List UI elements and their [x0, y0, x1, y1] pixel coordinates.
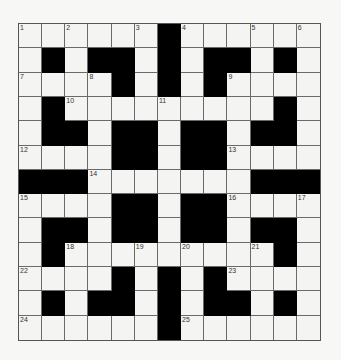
letter-cell[interactable]: 7 [19, 73, 42, 97]
letter-cell[interactable] [181, 267, 204, 291]
letter-cell[interactable] [297, 121, 320, 145]
letter-cell[interactable] [227, 97, 250, 121]
letter-cell[interactable] [65, 291, 88, 315]
letter-cell[interactable] [251, 316, 274, 340]
letter-cell[interactable] [181, 48, 204, 72]
letter-cell[interactable] [112, 24, 135, 48]
letter-cell[interactable] [251, 73, 274, 97]
letter-cell[interactable] [274, 194, 297, 218]
letter-cell[interactable] [274, 24, 297, 48]
letter-cell[interactable] [135, 73, 158, 97]
letter-cell[interactable] [112, 170, 135, 194]
letter-cell[interactable] [227, 121, 250, 145]
letter-cell[interactable]: 11 [158, 97, 181, 121]
letter-cell[interactable] [88, 316, 111, 340]
letter-cell[interactable] [42, 146, 65, 170]
letter-cell[interactable] [158, 218, 181, 242]
letter-cell[interactable] [297, 73, 320, 97]
letter-cell[interactable] [251, 267, 274, 291]
letter-cell[interactable] [19, 218, 42, 242]
letter-cell[interactable] [135, 267, 158, 291]
letter-cell[interactable] [42, 73, 65, 97]
letter-cell[interactable]: 23 [227, 267, 250, 291]
letter-cell[interactable] [112, 243, 135, 267]
letter-cell[interactable]: 13 [227, 146, 250, 170]
letter-cell[interactable]: 10 [65, 97, 88, 121]
letter-cell[interactable] [112, 97, 135, 121]
letter-cell[interactable] [88, 121, 111, 145]
letter-cell[interactable] [297, 146, 320, 170]
letter-cell[interactable] [181, 97, 204, 121]
letter-cell[interactable] [112, 316, 135, 340]
letter-cell[interactable]: 1 [19, 24, 42, 48]
letter-cell[interactable]: 3 [135, 24, 158, 48]
letter-cell[interactable]: 12 [19, 146, 42, 170]
letter-cell[interactable] [204, 24, 227, 48]
letter-cell[interactable] [65, 194, 88, 218]
letter-cell[interactable]: 9 [227, 73, 250, 97]
letter-cell[interactable]: 14 [88, 170, 111, 194]
letter-cell[interactable]: 19 [135, 243, 158, 267]
letter-cell[interactable]: 5 [251, 24, 274, 48]
letter-cell[interactable]: 6 [297, 24, 320, 48]
letter-cell[interactable] [135, 291, 158, 315]
letter-cell[interactable] [297, 316, 320, 340]
letter-cell[interactable] [297, 48, 320, 72]
letter-cell[interactable] [274, 73, 297, 97]
letter-cell[interactable] [251, 97, 274, 121]
letter-cell[interactable] [42, 194, 65, 218]
letter-cell[interactable]: 2 [65, 24, 88, 48]
letter-cell[interactable] [227, 218, 250, 242]
letter-cell[interactable] [251, 146, 274, 170]
letter-cell[interactable] [88, 243, 111, 267]
letter-cell[interactable] [181, 291, 204, 315]
letter-cell[interactable] [158, 146, 181, 170]
letter-cell[interactable] [65, 73, 88, 97]
letter-cell[interactable] [158, 243, 181, 267]
letter-cell[interactable] [227, 170, 250, 194]
letter-cell[interactable] [19, 97, 42, 121]
letter-cell[interactable]: 22 [19, 267, 42, 291]
letter-cell[interactable] [135, 97, 158, 121]
letter-cell[interactable]: 17 [297, 194, 320, 218]
letter-cell[interactable] [88, 97, 111, 121]
letter-cell[interactable] [274, 146, 297, 170]
letter-cell[interactable] [297, 218, 320, 242]
letter-cell[interactable] [181, 73, 204, 97]
letter-cell[interactable] [297, 243, 320, 267]
letter-cell[interactable] [297, 97, 320, 121]
letter-cell[interactable] [42, 267, 65, 291]
letter-cell[interactable] [65, 316, 88, 340]
letter-cell[interactable] [135, 48, 158, 72]
letter-cell[interactable] [135, 316, 158, 340]
letter-cell[interactable] [65, 48, 88, 72]
letter-cell[interactable] [251, 48, 274, 72]
letter-cell[interactable] [274, 267, 297, 291]
letter-cell[interactable] [297, 291, 320, 315]
letter-cell[interactable] [251, 291, 274, 315]
letter-cell[interactable] [204, 316, 227, 340]
letter-cell[interactable] [204, 170, 227, 194]
letter-cell[interactable] [158, 194, 181, 218]
letter-cell[interactable] [88, 194, 111, 218]
letter-cell[interactable] [204, 243, 227, 267]
letter-cell[interactable] [297, 267, 320, 291]
letter-cell[interactable] [19, 48, 42, 72]
letter-cell[interactable] [158, 121, 181, 145]
letter-cell[interactable] [88, 267, 111, 291]
letter-cell[interactable] [88, 218, 111, 242]
letter-cell[interactable] [42, 24, 65, 48]
letter-cell[interactable]: 24 [19, 316, 42, 340]
letter-cell[interactable] [227, 316, 250, 340]
letter-cell[interactable]: 20 [181, 243, 204, 267]
letter-cell[interactable] [42, 316, 65, 340]
letter-cell[interactable] [135, 170, 158, 194]
letter-cell[interactable]: 4 [181, 24, 204, 48]
letter-cell[interactable] [181, 170, 204, 194]
letter-cell[interactable] [227, 24, 250, 48]
letter-cell[interactable] [251, 194, 274, 218]
letter-cell[interactable] [227, 243, 250, 267]
letter-cell[interactable] [158, 170, 181, 194]
letter-cell[interactable]: 16 [227, 194, 250, 218]
letter-cell[interactable]: 21 [251, 243, 274, 267]
